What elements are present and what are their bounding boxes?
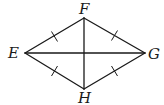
rhombus-diagram: E F G H [0, 0, 164, 105]
tick-mark-he [52, 66, 58, 76]
vertex-label-f: F [78, 0, 90, 18]
vertex-label-h: H [77, 89, 92, 105]
tick-mark-fg [112, 31, 118, 41]
side-ef [25, 18, 84, 53]
vertex-label-e: E [7, 44, 19, 62]
vertex-label-g: G [148, 45, 160, 63]
tick-mark-gh [112, 66, 118, 76]
